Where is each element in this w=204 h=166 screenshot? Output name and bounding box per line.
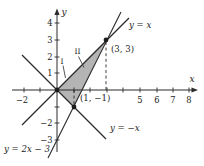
line-label-y-equals-neg-x: y = −x xyxy=(109,123,140,133)
point-origin xyxy=(55,88,60,93)
y-tick-label: −2 xyxy=(40,118,52,128)
textbook-figure: y x −2 5 6 7 8 4 3 2 1 −2 −3 y = x y = −… xyxy=(0,0,204,166)
y-tick-label: 4 xyxy=(47,18,52,28)
x-tick-label: 5 xyxy=(137,95,142,105)
region-1-leader xyxy=(63,66,66,79)
y-axis-label: y xyxy=(61,7,68,17)
region-label-1: I xyxy=(61,57,64,66)
point-label-1-neg1: (1, −1) xyxy=(80,93,110,103)
region-label-2: II xyxy=(75,47,81,56)
y-tick-label: 2 xyxy=(47,52,52,62)
y-axis-arrowhead-icon xyxy=(54,9,59,16)
x-tick-label: 8 xyxy=(186,95,191,105)
y-tick-label: 1 xyxy=(47,68,52,78)
line-label-y-equals-x: y = x xyxy=(128,20,152,30)
y-tick-label: 3 xyxy=(47,35,52,45)
x-axis-label: x xyxy=(190,74,195,84)
line-label-y-equals-2x-minus-3: y = 2x − 3 xyxy=(3,144,50,154)
x-tick-label: −2 xyxy=(16,95,28,105)
line-y-equals-2x-minus-3 xyxy=(48,12,121,158)
point-label-3-3: (3, 3) xyxy=(111,44,134,54)
coordinate-plane-figure: y x −2 5 6 7 8 4 3 2 1 −2 −3 y = x y = −… xyxy=(0,0,204,166)
point-1-neg1 xyxy=(72,105,77,110)
x-tick-label: 6 xyxy=(154,95,159,105)
x-axis-arrowhead-icon xyxy=(192,87,199,92)
point-3-3 xyxy=(104,38,109,43)
x-tick-label: 7 xyxy=(170,95,175,105)
